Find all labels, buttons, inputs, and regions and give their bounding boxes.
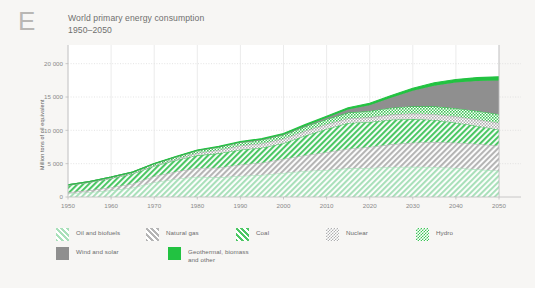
legend-row-1: Oil and biofuelsNatural gasCoalNuclearHy… bbox=[56, 228, 526, 241]
legend-label-oil: Oil and biofuels bbox=[76, 228, 120, 237]
legend-item-oil[interactable]: Oil and biofuels bbox=[56, 228, 146, 241]
chart-panel: E World primary energy consumption 1950–… bbox=[0, 0, 535, 288]
legend-label-coal: Coal bbox=[256, 228, 269, 237]
x-tick-label: 2000 bbox=[277, 202, 291, 209]
x-tick-label: 2020 bbox=[363, 202, 377, 209]
legend-swatch-geothermal-icon bbox=[168, 247, 181, 260]
y-tick-label: 5 000 bbox=[48, 160, 64, 167]
legend-item-coal[interactable]: Coal bbox=[236, 228, 326, 241]
legend-item-hydro[interactable]: Hydro bbox=[416, 228, 526, 241]
y-axis-ticks: 05 00010 00015 00020 000 bbox=[44, 60, 68, 200]
legend-row-2: Wind and solarGeothermal, biomass and ot… bbox=[56, 247, 526, 265]
y-tick-label: 15 000 bbox=[44, 93, 63, 100]
legend-item-wind_solar[interactable]: Wind and solar bbox=[56, 247, 168, 260]
legend-item-gas[interactable]: Natural gas bbox=[146, 228, 236, 241]
legend-item-nuclear[interactable]: Nuclear bbox=[326, 228, 416, 241]
x-tick-label: 2050 bbox=[492, 202, 506, 209]
legend-label-nuclear: Nuclear bbox=[346, 228, 368, 237]
legend-swatch-nuclear-icon bbox=[326, 228, 339, 241]
legend-swatch-hydro-icon bbox=[416, 228, 429, 241]
x-tick-label: 1980 bbox=[190, 202, 204, 209]
legend-swatch-gas-icon bbox=[146, 228, 159, 241]
x-tick-label: 1960 bbox=[104, 202, 118, 209]
x-tick-label: 2030 bbox=[406, 202, 420, 209]
x-axis-ticks: 1950196019701980199020002010202020302040… bbox=[61, 197, 506, 209]
y-tick-label: 10 000 bbox=[44, 127, 63, 134]
legend-item-geothermal[interactable]: Geothermal, biomass and other bbox=[168, 247, 278, 265]
x-tick-label: 2040 bbox=[449, 202, 463, 209]
x-tick-label: 1970 bbox=[147, 202, 161, 209]
legend-swatch-oil-icon bbox=[56, 228, 69, 241]
x-tick-label: 2010 bbox=[320, 202, 334, 209]
legend-label-wind_solar: Wind and solar bbox=[76, 247, 119, 256]
legend-label-gas: Natural gas bbox=[166, 228, 199, 237]
legend-label-hydro: Hydro bbox=[436, 228, 453, 237]
legend-swatch-coal-icon bbox=[236, 228, 249, 241]
legend-swatch-wind_solar-icon bbox=[56, 247, 69, 260]
y-tick-label: 0 bbox=[60, 193, 64, 200]
chart-legend: Oil and biofuelsNatural gasCoalNuclearHy… bbox=[56, 228, 526, 271]
x-tick-label: 1950 bbox=[61, 202, 75, 209]
x-tick-label: 1990 bbox=[234, 202, 248, 209]
legend-label-geothermal: Geothermal, biomass and other bbox=[188, 247, 249, 265]
y-tick-label: 20 000 bbox=[44, 60, 63, 67]
